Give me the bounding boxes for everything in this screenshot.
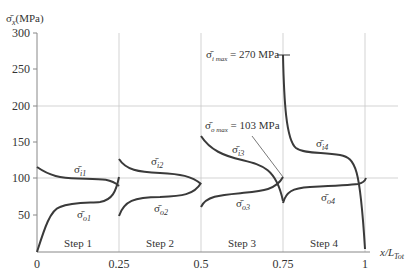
gridlines	[37, 33, 398, 252]
svg-text:250: 250	[12, 62, 30, 76]
curve-sigma-i3	[201, 136, 283, 201]
x-tick-labels: 0 0.25 0.5 0.75 1	[34, 257, 368, 271]
svg-text:0.75: 0.75	[273, 257, 294, 271]
svg-text:σ̄i4: σ̄i4	[316, 137, 328, 152]
svg-text:σ̄i3: σ̄i3	[232, 143, 244, 158]
x-axis-title: x/LTot	[379, 246, 405, 261]
annotation-omax: σ̄o max = 103 MPa	[205, 119, 280, 134]
svg-text:σ̄o1: σ̄o1	[77, 208, 91, 223]
svg-text:0.5: 0.5	[194, 257, 209, 271]
annotation-imax: σ̄i max = 270 MPa	[206, 48, 279, 63]
y-axis-title: σ̄x(MPa)	[6, 12, 44, 27]
svg-text:0: 0	[34, 257, 40, 271]
svg-text:0.25: 0.25	[109, 257, 130, 271]
curve-sigma-i4	[283, 55, 365, 249]
svg-text:1: 1	[362, 257, 368, 271]
svg-text:300: 300	[12, 26, 30, 40]
svg-text:σ̄o2: σ̄o2	[154, 202, 168, 217]
svg-text:σ̄o4: σ̄o4	[321, 191, 335, 206]
stress-chart: σ̄x(MPa) 300 250 200 150 100 50 0 0.25 0…	[0, 0, 417, 278]
y-tick-labels: 300 250 200 150 100 50	[12, 26, 30, 222]
svg-text:σ̄i1: σ̄i1	[74, 163, 86, 178]
svg-text:Step 2: Step 2	[146, 237, 174, 249]
svg-text:Step 1: Step 1	[64, 237, 92, 249]
svg-text:100: 100	[12, 171, 30, 185]
svg-text:Step 3: Step 3	[228, 237, 256, 249]
svg-text:Step 4: Step 4	[310, 237, 338, 249]
curve-labels: σ̄i1 σ̄o1 σ̄i2 σ̄o2 σ̄i3 σ̄o3 σ̄i4 σ̄o4	[74, 137, 335, 223]
svg-text:50: 50	[18, 208, 30, 222]
svg-text:200: 200	[12, 99, 30, 113]
svg-text:σ̄i2: σ̄i2	[151, 155, 163, 170]
svg-text:σ̄o3: σ̄o3	[236, 197, 250, 212]
svg-text:150: 150	[12, 135, 30, 149]
